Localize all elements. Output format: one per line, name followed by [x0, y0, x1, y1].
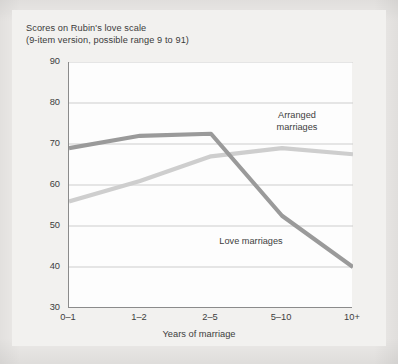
series-label-love-marriages: Love marriages [205, 236, 297, 248]
x-tick-label: 10+ [322, 312, 382, 322]
x-axis: 0–1 1–2 2–5 5–10 10+ [0, 0, 398, 364]
x-tick-label: 0–1 [38, 312, 98, 322]
chart-figure: Scores on Rubin's love scale (9-item ver… [0, 0, 398, 364]
x-tick-label: 5–10 [251, 312, 311, 322]
x-tick-label: 2–5 [180, 312, 240, 322]
x-axis-title: Years of marriage [0, 329, 398, 339]
x-tick-label: 1–2 [109, 312, 169, 322]
series-label-arranged-marriages: Arranged marriages [258, 110, 336, 133]
